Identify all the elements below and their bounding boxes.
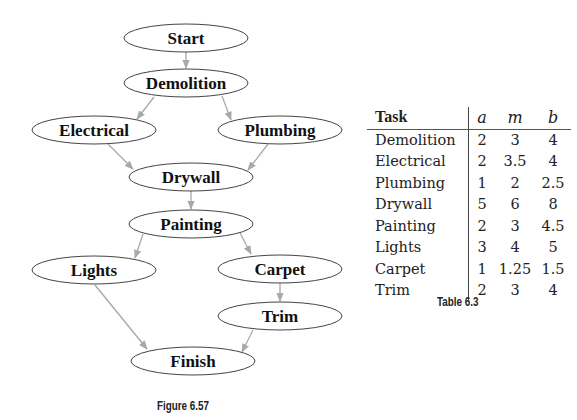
a-cell: 2 <box>469 129 496 151</box>
node-electrical: Electrical <box>32 116 156 144</box>
table-header-row: Task a m b <box>367 107 571 129</box>
task-cell: Painting <box>367 216 469 238</box>
node-label: Electrical <box>59 121 129 140</box>
node-lights: Lights <box>32 256 156 284</box>
a-cell: 2 <box>469 216 496 238</box>
a-cell: 1 <box>469 259 496 281</box>
b-cell: 1.5 <box>535 259 571 281</box>
node-demolition: Demolition <box>124 69 248 97</box>
pert-table: Task a m b Demolition234Electrical23.54P… <box>367 107 571 302</box>
table-row: Plumbing122.5 <box>367 173 571 195</box>
edge-painting-to-carpet <box>240 233 251 254</box>
node-label: Demolition <box>146 74 227 93</box>
task-cell: Carpet <box>367 259 469 281</box>
task-cell: Drywall <box>367 194 469 216</box>
edge-painting-to-lights <box>135 234 143 258</box>
header-task: Task <box>367 107 469 129</box>
edge-demolition-to-plumbing <box>222 96 231 120</box>
node-label: Plumbing <box>245 121 316 140</box>
task-cell: Electrical <box>367 151 469 173</box>
node-start: Start <box>124 24 248 52</box>
m-cell: 3 <box>495 216 535 238</box>
edge-trim-to-finish <box>242 330 253 352</box>
table-row: Carpet11.251.5 <box>367 259 571 281</box>
m-cell: 6 <box>495 194 535 216</box>
b-cell: 4 <box>535 151 571 173</box>
table-caption: Table 6.3 <box>437 295 478 309</box>
node-drywall: Drywall <box>129 163 253 191</box>
table-body: Demolition234Electrical23.54Plumbing122.… <box>367 129 571 302</box>
table-row: Electrical23.54 <box>367 151 571 173</box>
edge-electrical-to-drywall <box>108 144 133 169</box>
figure-caption: Figure 6.57 <box>157 399 209 413</box>
nodes-layer: StartDemolitionElectricalPlumbingDrywall… <box>32 24 342 375</box>
header-a: a <box>469 107 496 129</box>
a-cell: 3 <box>469 237 496 259</box>
m-cell: 4 <box>495 237 535 259</box>
b-cell: 4 <box>535 129 571 151</box>
node-label: Start <box>168 29 205 48</box>
b-cell: 4 <box>535 280 571 302</box>
table-row: Lights345 <box>367 237 571 259</box>
node-carpet: Carpet <box>218 255 342 283</box>
task-cell: Plumbing <box>367 173 469 195</box>
table-row: Demolition234 <box>367 129 571 151</box>
b-cell: 4.5 <box>535 216 571 238</box>
edge-lights-to-finish <box>95 285 147 349</box>
node-label: Drywall <box>162 168 221 187</box>
header-m: m <box>495 107 535 129</box>
header-b: b <box>535 107 571 129</box>
a-cell: 5 <box>469 194 496 216</box>
edge-demolition-to-electrical <box>137 97 154 119</box>
node-trim: Trim <box>218 302 342 330</box>
m-cell: 3 <box>495 129 535 151</box>
m-cell: 2 <box>495 173 535 195</box>
node-plumbing: Plumbing <box>218 116 342 144</box>
m-cell: 3 <box>495 280 535 302</box>
b-cell: 5 <box>535 237 571 259</box>
table-row: Drywall568 <box>367 194 571 216</box>
table-row: Painting234.5 <box>367 216 571 238</box>
edge-plumbing-to-drywall <box>248 144 268 170</box>
node-label: Lights <box>71 261 118 280</box>
task-cell: Demolition <box>367 129 469 151</box>
m-cell: 3.5 <box>495 151 535 173</box>
b-cell: 8 <box>535 194 571 216</box>
task-cell: Lights <box>367 237 469 259</box>
node-finish: Finish <box>131 347 255 375</box>
node-label: Painting <box>160 215 222 234</box>
node-painting: Painting <box>129 210 253 238</box>
a-cell: 2 <box>469 151 496 173</box>
a-cell: 1 <box>469 173 496 195</box>
node-label: Carpet <box>255 260 306 279</box>
node-label: Finish <box>170 352 216 371</box>
node-label: Trim <box>262 307 299 326</box>
m-cell: 1.25 <box>495 259 535 281</box>
b-cell: 2.5 <box>535 173 571 195</box>
